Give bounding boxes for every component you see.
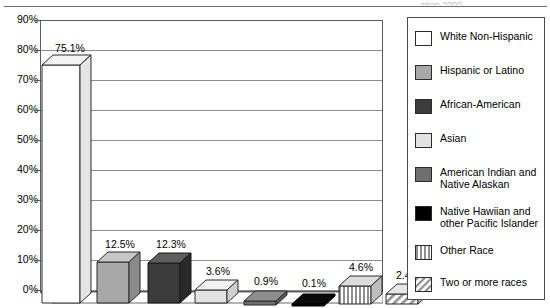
legend-item-white-non-hispanic[interactable]: White Non-Hispanic: [415, 30, 533, 46]
legend-item-american-indian-native-alaskan[interactable]: American Indian and Native Alaskan: [415, 166, 536, 190]
clipped-title: ation 2000: [420, 0, 530, 5]
legend-item-hispanic-or-latino[interactable]: Hispanic or Latino: [415, 64, 524, 80]
legend: White Non-Hispanic Hispanic or Latino Af…: [407, 17, 545, 300]
bar-native-hawaiian-pacific-islander[interactable]: [292, 294, 338, 307]
legend-swatch-icon: [415, 245, 432, 260]
legend-swatch-icon: [415, 206, 432, 221]
legend-swatch-icon: [415, 133, 432, 148]
legend-swatch-icon: [415, 167, 432, 182]
bar-american-indian-native-alaskan[interactable]: [244, 291, 290, 307]
bar-african-american[interactable]: [148, 253, 194, 304]
legend-item-two-or-more-races[interactable]: Two or more races: [415, 276, 527, 292]
bar-value-label: 0.1%: [289, 278, 339, 289]
legend-label: Asian: [440, 132, 466, 144]
legend-label: Hispanic or Latino: [440, 64, 524, 76]
bar-value-label: 0.9%: [241, 276, 291, 287]
bar-value-label: 75.1%: [43, 43, 97, 54]
legend-item-african-american[interactable]: African-American: [415, 98, 521, 114]
bar-asian[interactable]: [195, 280, 241, 305]
legend-swatch-icon: [415, 65, 432, 80]
legend-swatch-icon: [415, 99, 432, 114]
legend-label: Native Hawiian and other Pacific Islande…: [440, 205, 538, 229]
bar-value-label: 3.6%: [193, 266, 243, 277]
legend-label: White Non-Hispanic: [440, 30, 533, 42]
legend-item-asian[interactable]: Asian: [415, 132, 466, 148]
bar-value-label: 12.3%: [146, 239, 196, 250]
bar-value-label: 12.5%: [95, 239, 145, 250]
bar-white-non-hispanic[interactable]: [42, 55, 96, 303]
bar-other-race[interactable]: [339, 276, 385, 306]
legend-swatch-icon: [415, 277, 432, 292]
bar-value-label: 4.6%: [336, 262, 386, 273]
bar-group: 75.1% 12.5% 12.3%: [0, 10, 395, 308]
legend-item-other-race[interactable]: Other Race: [415, 244, 494, 260]
legend-item-native-hawaiian-pacific-islander[interactable]: Native Hawiian and other Pacific Islande…: [415, 205, 538, 229]
legend-label: American Indian and Native Alaskan: [440, 166, 536, 190]
legend-label: Other Race: [440, 244, 494, 256]
bar-hispanic-or-latino[interactable]: [97, 252, 143, 304]
legend-label: Two or more races: [440, 276, 527, 288]
legend-label: African-American: [440, 98, 521, 110]
header-divider: [4, 6, 547, 7]
bar-chart: 90% 80% 70% 60% 50% 40% 30% 20% 10% 0%: [0, 10, 395, 308]
legend-swatch-icon: [415, 31, 432, 46]
chart-page: ation 2000 90% 80% 70% 60% 50% 40% 30% 2…: [0, 0, 550, 308]
